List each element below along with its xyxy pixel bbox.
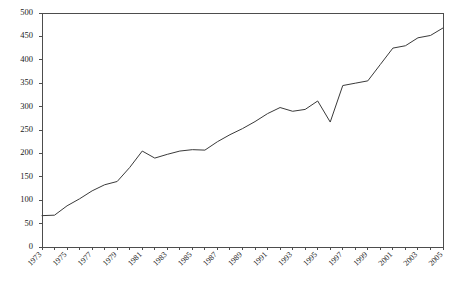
x-axis-tick-label: 2005 <box>427 250 445 268</box>
chart-canvas: 050100150200250300350400450500 197319751… <box>0 0 462 290</box>
y-axis-tick-label: 450 <box>20 30 33 40</box>
x-axis-tick-label: 1989 <box>226 250 244 268</box>
x-axis-tick-label: 1985 <box>176 250 194 268</box>
x-axis-tick-labels: 1973197519771979198119831985198719891991… <box>26 250 445 268</box>
x-axis-tick-label: 1973 <box>26 250 44 268</box>
y-axis-tick-label: 50 <box>25 218 34 228</box>
x-axis-tick-label: 1979 <box>101 250 119 268</box>
y-axis-tick-label: 300 <box>20 101 33 111</box>
x-axis-tick-label: 1999 <box>352 250 370 268</box>
x-axis-tick-label: 1981 <box>126 250 144 268</box>
y-axis-tick-label: 250 <box>20 124 33 134</box>
y-axis-tick-label: 500 <box>20 7 33 17</box>
x-axis-tick-label: 1991 <box>251 250 269 268</box>
x-axis-tick-label: 1987 <box>201 250 219 268</box>
y-axis-tick-label: 350 <box>20 77 33 87</box>
y-axis-tick-labels: 050100150200250300350400450500 <box>20 7 33 251</box>
y-axis-tick-label: 150 <box>20 171 33 181</box>
x-axis-tick-label: 2001 <box>377 250 395 268</box>
x-axis-tick-label: 1997 <box>326 250 344 268</box>
y-axis-tick-label: 400 <box>20 54 33 64</box>
x-axis-tick-label: 1995 <box>301 250 319 268</box>
y-axis-tick-label: 0 <box>29 241 33 251</box>
y-axis-tick-label: 100 <box>20 194 33 204</box>
x-axis-tick-label: 1993 <box>276 250 294 268</box>
plot-axis-frame <box>42 13 443 247</box>
data-series-line <box>42 28 443 216</box>
x-axis-tick-label: 1977 <box>76 250 94 268</box>
line-chart-figure: 050100150200250300350400450500 197319751… <box>0 0 462 290</box>
x-axis-tick-label: 2003 <box>402 250 420 268</box>
x-axis-tick-label: 1975 <box>51 250 69 268</box>
y-axis-tick-label: 200 <box>20 147 33 157</box>
x-axis-tick-label: 1983 <box>151 250 169 268</box>
